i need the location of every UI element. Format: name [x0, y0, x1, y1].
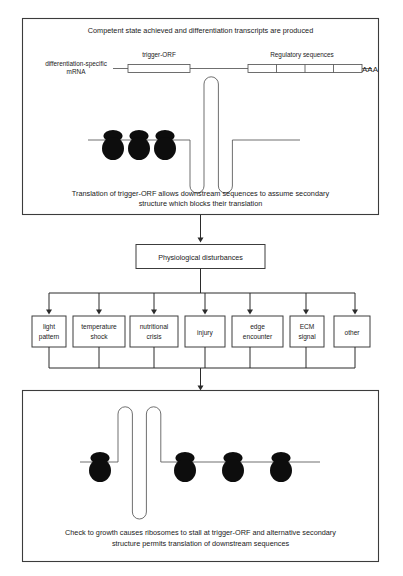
top-panel-heading: Competent state achieved and differentia… — [88, 26, 313, 35]
top-panel-frame — [23, 19, 379, 215]
stressor-label: edge — [250, 323, 265, 331]
stressor-label: ECM — [300, 323, 315, 330]
stressor-box-edge-encounter[interactable]: edge encounter — [232, 316, 283, 347]
regulatory-sequence-boxes — [248, 65, 362, 73]
stressor-box-ecm-signal[interactable]: ECM signal — [290, 316, 324, 347]
physiological-disturbances-label: Physiological disturbances — [158, 253, 243, 262]
top-panel-caption-line1: Translation of trigger-ORF allows downst… — [72, 189, 330, 198]
ribosome — [154, 130, 176, 160]
stressor-box-injury[interactable]: injury — [185, 316, 225, 347]
figure-root: Competent state achieved and differentia… — [0, 0, 403, 576]
bottom-panel-caption-line1: Check to growth causes ribosomes to stal… — [65, 528, 336, 537]
stressor-box-nutritional-crisis[interactable]: nutritional crisis — [130, 316, 178, 347]
ribosome — [102, 130, 124, 160]
stressor-drop-arrows — [49, 293, 355, 312]
ribosome — [222, 452, 244, 482]
ribosome — [89, 452, 111, 482]
top-panel-caption-line2: structure which blocks their translation — [139, 199, 263, 208]
stressor-label: encounter — [243, 333, 273, 340]
stressor-label: crisis — [146, 333, 162, 340]
mrna-label-line2: mRNA — [67, 68, 87, 75]
ribosome — [128, 130, 150, 160]
stressor-box-light-pattern[interactable]: light pattern — [32, 316, 66, 347]
ribosome-group-bottom — [89, 452, 292, 482]
trigger-orf-box — [128, 65, 190, 73]
diagram-canvas: Competent state achieved and differentia… — [0, 0, 403, 576]
stressor-label: injury — [197, 329, 213, 337]
stressor-label: shock — [90, 333, 108, 340]
stressor-label: pattern — [39, 333, 60, 341]
bottom-panel-caption-line2: structure permits translation of downstr… — [112, 539, 290, 548]
stressor-label: signal — [298, 333, 316, 341]
stressor-label: nutritional — [140, 323, 169, 330]
stressor-box-other[interactable]: other — [334, 316, 370, 347]
poly-a-tail-label: AAA — [362, 65, 379, 74]
regulatory-sequences-label: Regulatory sequences — [270, 51, 334, 59]
ribosome — [270, 452, 292, 482]
stressor-label: temperature — [81, 323, 117, 331]
mrna-label-line1: differentiation-specific — [45, 60, 107, 68]
stressor-label: other — [344, 329, 360, 336]
trigger-orf-label: trigger-ORF — [142, 51, 176, 59]
stressor-converge-lines — [49, 347, 355, 368]
stressor-boxes: light pattern temperature shock nutritio… — [32, 316, 370, 347]
stressor-box-temperature-shock[interactable]: temperature shock — [73, 316, 125, 347]
ribosome — [174, 452, 196, 482]
stressor-label: light — [43, 323, 55, 331]
ribosome-group-top — [102, 130, 176, 160]
